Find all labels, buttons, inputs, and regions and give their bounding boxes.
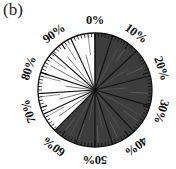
rose-diagram-svg: 0%10%20%30%40%50%60%70%80%90% [0, 0, 176, 169]
axis-tick-label: 70% [18, 98, 39, 125]
axis-tick-label: 30% [151, 98, 172, 125]
axis-tick-label: 0% [86, 13, 104, 27]
axis-tick-label: 50% [83, 153, 107, 167]
axis-tick-label: 80% [18, 55, 39, 82]
axis-tick-label: 20% [151, 55, 172, 82]
circular-rose-diagram: 0%10%20%30%40%50%60%70%80%90% [0, 0, 176, 169]
